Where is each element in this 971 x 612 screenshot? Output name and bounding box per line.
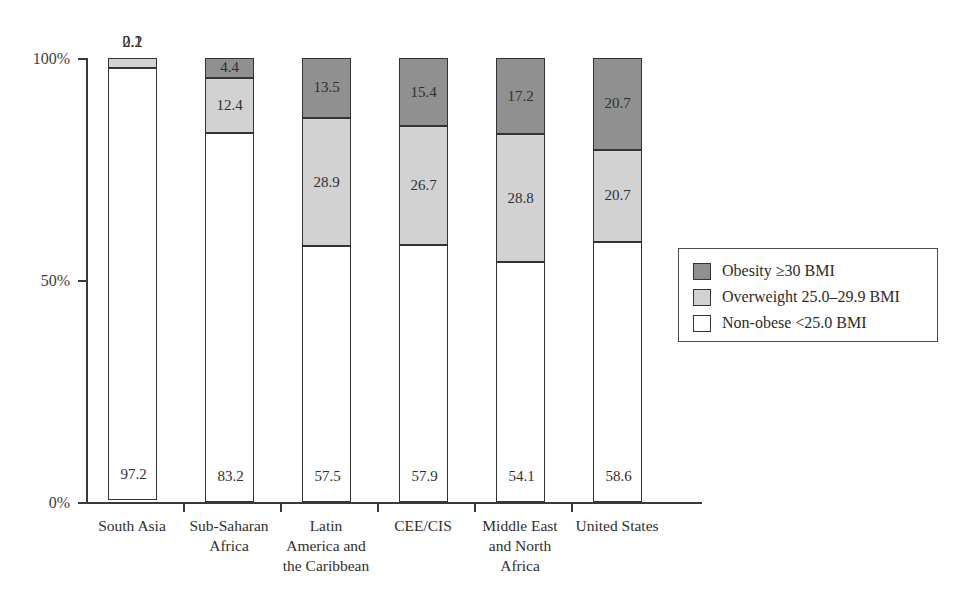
bar-segment-obesity: 13.5 <box>302 58 351 118</box>
bar-segment-overweight: 12.4 <box>205 78 254 133</box>
bar-segment-non-obese: 97.2 <box>108 68 157 500</box>
bar-segment-non-obese: 58.6 <box>593 242 642 502</box>
bar-value-overweight: 2.2 <box>108 34 157 50</box>
bar-value-overweight: 20.7 <box>604 188 630 203</box>
bar-value-obesity: 4.4 <box>220 60 239 75</box>
x-tick-2 <box>280 503 282 512</box>
legend-swatch-obesity <box>693 263 711 280</box>
y-axis-label-0: 0% <box>18 495 70 511</box>
y-tick-50 <box>78 280 87 282</box>
bar-cee-cis: 15.426.757.9 <box>399 58 448 502</box>
legend-label-obesity: Obesity ≥30 BMI <box>722 263 835 279</box>
legend-item-overweight[interactable]: Overweight 25.0–29.9 BMI <box>693 284 937 310</box>
x-tick-3 <box>377 503 379 512</box>
bar-value-non-obese: 58.6 <box>594 469 643 484</box>
bar-segment-overweight: 28.9 <box>302 118 351 246</box>
bar-segment-overweight: 20.7 <box>593 150 642 242</box>
bar-south-asia: 0.12.297.2 <box>108 58 157 502</box>
bar-segment-overweight <box>108 58 157 68</box>
bar-value-obesity: 17.2 <box>507 89 533 104</box>
bar-segment-non-obese: 57.5 <box>302 246 351 501</box>
x-tick-5 <box>571 503 573 512</box>
legend-label-overweight: Overweight 25.0–29.9 BMI <box>722 289 900 305</box>
bar-middle-east: 17.228.854.1 <box>496 58 545 502</box>
bar-segment-non-obese: 54.1 <box>496 262 545 502</box>
legend-swatch-non-obese <box>693 315 711 332</box>
x-label-united-states: United States <box>559 516 675 536</box>
stacked-bar-chart: 100% 50% 0% 0.12.297.2 4.412.483.2 13.52… <box>0 0 971 612</box>
x-tick-4 <box>474 503 476 512</box>
bar-value-obesity: 15.4 <box>410 85 436 100</box>
legend-item-non-obese[interactable]: Non-obese <25.0 BMI <box>693 310 937 336</box>
bar-united-states: 20.720.758.6 <box>593 58 642 502</box>
x-tick-1 <box>183 503 185 512</box>
bar-segment-overweight: 28.8 <box>496 134 545 262</box>
legend-item-obesity[interactable]: Obesity ≥30 BMI <box>693 258 937 284</box>
bar-segment-non-obese: 57.9 <box>399 245 448 502</box>
bar-value-non-obese: 83.2 <box>206 469 255 484</box>
bar-value-overweight: 28.9 <box>313 175 339 190</box>
bar-segment-obesity: 20.7 <box>593 58 642 150</box>
bar-segment-overweight: 26.7 <box>399 126 448 245</box>
bar-value-non-obese: 97.2 <box>109 467 158 482</box>
bar-value-non-obese: 57.9 <box>400 469 449 484</box>
y-axis-label-50: 50% <box>18 273 70 289</box>
bar-value-overweight: 12.4 <box>216 98 242 113</box>
y-axis-label-100: 100% <box>18 51 70 67</box>
x-axis-line <box>86 502 702 504</box>
bar-value-obesity: 20.7 <box>604 96 630 111</box>
bar-segment-obesity: 17.2 <box>496 58 545 134</box>
bar-value-overweight: 26.7 <box>410 178 436 193</box>
bar-latin-america: 13.528.957.5 <box>302 58 351 502</box>
legend-swatch-overweight <box>693 289 711 306</box>
bar-value-non-obese: 57.5 <box>303 469 352 484</box>
bar-segment-obesity: 15.4 <box>399 58 448 126</box>
bar-segment-non-obese: 83.2 <box>205 133 254 502</box>
bar-segment-obesity: 4.4 <box>205 58 254 78</box>
bar-value-obesity: 13.5 <box>313 80 339 95</box>
bar-sub-saharan-africa: 4.412.483.2 <box>205 58 254 502</box>
y-tick-100 <box>78 58 87 60</box>
legend-label-non-obese: Non-obese <25.0 BMI <box>722 315 867 331</box>
chart-legend: Obesity ≥30 BMI Overweight 25.0–29.9 BMI… <box>678 248 938 342</box>
bar-value-non-obese: 54.1 <box>497 469 546 484</box>
bar-value-overweight: 28.8 <box>507 191 533 206</box>
